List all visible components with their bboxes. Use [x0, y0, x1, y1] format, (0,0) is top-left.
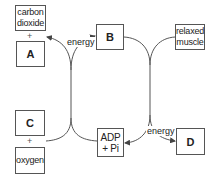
box-d: D — [176, 128, 205, 155]
relaxed-muscle-line1: relaxed — [176, 26, 204, 36]
carbon-dioxide-line1: carbon — [17, 7, 43, 17]
adp-line2: + Pi — [102, 143, 119, 154]
box-c: C — [15, 110, 45, 136]
box-d-label: D — [187, 136, 195, 148]
box-a: A — [16, 41, 45, 67]
plus-sign-top: + — [27, 31, 32, 41]
adp-line1: ADP — [101, 132, 121, 143]
box-b-label: B — [106, 31, 114, 43]
adp-pi-box: ADP+ Pi — [97, 128, 124, 157]
relaxed-muscle-box: relaxedmuscle — [175, 24, 205, 50]
oxygen-label: oxygen — [16, 155, 44, 166]
energy-label-lower: energy — [146, 126, 176, 136]
box-c-label: C — [26, 117, 34, 129]
oxygen-box: oxygen — [15, 147, 45, 174]
relaxed-muscle-line2: muscle — [176, 37, 203, 47]
energy-label-upper: energy — [66, 37, 96, 47]
carbon-dioxide-line2: dioxide — [17, 18, 44, 28]
box-a-label: A — [27, 48, 35, 60]
carbon-dioxide-box: carbondioxide — [15, 5, 46, 31]
box-b: B — [96, 24, 124, 50]
plus-sign-bottom: + — [27, 136, 32, 146]
